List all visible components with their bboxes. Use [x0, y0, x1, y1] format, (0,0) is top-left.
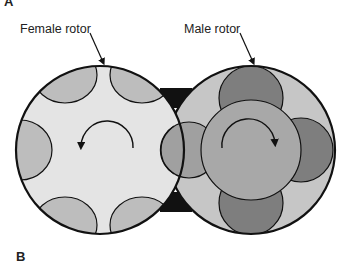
rotor-diagram: [0, 0, 346, 263]
female-lobe-top-left: [33, 47, 97, 103]
female-leader-line: [90, 33, 103, 62]
male-leader-line: [240, 33, 253, 62]
male-core: [201, 100, 301, 200]
female-rotor: [0, 47, 217, 253]
female-lobe-bottom-left: [33, 197, 97, 253]
